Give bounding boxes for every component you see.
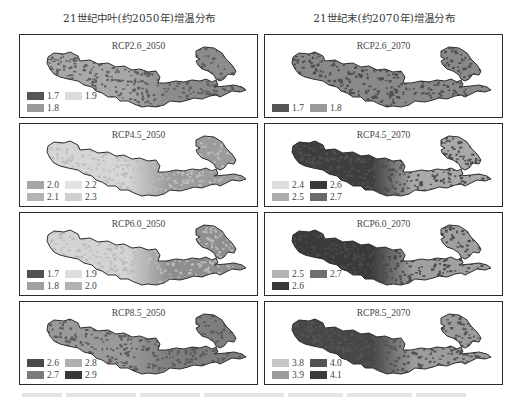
map-panel-rcp2-6-2050: RCP2.6_20501.71.91.8 bbox=[19, 34, 258, 118]
legend-swatch bbox=[272, 282, 289, 290]
column-title-2070: 21世纪末(约2070年)增温分布 bbox=[264, 10, 504, 25]
legend-item: 3.8 bbox=[272, 358, 304, 368]
legend-item: 2.5 bbox=[272, 192, 304, 202]
legend-swatch bbox=[27, 104, 44, 112]
legend-label: 3.8 bbox=[292, 358, 304, 368]
legend-item: 2.7 bbox=[310, 269, 342, 279]
panel-title: RCP8.5_2050 bbox=[20, 308, 257, 318]
legend-item: 4.1 bbox=[310, 370, 342, 380]
legend-swatch bbox=[65, 270, 82, 278]
legend-item: 3.9 bbox=[272, 370, 304, 380]
legend: 2.02.22.12.3 bbox=[27, 180, 97, 202]
panel-title: RCP4.5_2070 bbox=[265, 130, 502, 140]
legend-label: 4.1 bbox=[330, 370, 342, 380]
map-panel-rcp8-5-2070: RCP8.5_20703.84.03.94.1 bbox=[264, 301, 503, 385]
legend-item: 1.9 bbox=[65, 269, 97, 279]
legend-item: 2.0 bbox=[65, 281, 97, 291]
legend-label: 4.0 bbox=[330, 358, 342, 368]
legend-label: 2.7 bbox=[330, 269, 342, 279]
legend-swatch bbox=[65, 359, 82, 367]
legend-swatch bbox=[65, 282, 82, 290]
legend-swatch bbox=[27, 193, 44, 201]
legend-item: 1.7 bbox=[27, 91, 59, 101]
legend-label: 2.9 bbox=[85, 370, 97, 380]
legend-label: 1.8 bbox=[47, 281, 59, 291]
legend-item: 2.2 bbox=[65, 180, 97, 190]
legend-item: 2.6 bbox=[27, 358, 59, 368]
legend-label: 2.0 bbox=[47, 180, 59, 190]
legend-item: 2.6 bbox=[272, 281, 304, 291]
legend-swatch bbox=[65, 193, 82, 201]
legend-item: 2.3 bbox=[65, 192, 97, 202]
map-panel-rcp2-6-2070: RCP2.6_20701.71.8 bbox=[264, 34, 503, 118]
legend-label: 3.9 bbox=[292, 370, 304, 380]
legend-label: 1.9 bbox=[85, 269, 97, 279]
legend-label: 2.0 bbox=[85, 281, 97, 291]
legend-label: 1.8 bbox=[47, 103, 59, 113]
legend-label: 2.2 bbox=[85, 180, 97, 190]
legend-label: 1.7 bbox=[47, 91, 59, 101]
legend-swatch bbox=[65, 371, 82, 379]
legend-swatch bbox=[272, 359, 289, 367]
panel-title: RCP8.5_2070 bbox=[265, 308, 502, 318]
legend-swatch bbox=[272, 181, 289, 189]
map-panel-rcp6-0-2070: RCP6.0_20702.52.72.6 bbox=[264, 212, 503, 296]
legend: 3.84.03.94.1 bbox=[272, 358, 342, 380]
legend-swatch bbox=[27, 92, 44, 100]
legend-label: 1.7 bbox=[292, 103, 304, 113]
legend-item: 4.0 bbox=[310, 358, 342, 368]
legend-swatch bbox=[27, 282, 44, 290]
legend-swatch bbox=[272, 270, 289, 278]
legend-item: 1.8 bbox=[27, 103, 59, 113]
legend-item: 1.8 bbox=[27, 281, 59, 291]
legend-item: 2.6 bbox=[310, 180, 342, 190]
column-title-2050: 21世纪中叶(约2050年)增温分布 bbox=[19, 10, 259, 25]
panel-title: RCP2.6_2070 bbox=[265, 41, 502, 51]
legend: 2.42.62.52.7 bbox=[272, 180, 342, 202]
legend-item: 2.0 bbox=[27, 180, 59, 190]
map-panel-rcp4-5-2070: RCP4.5_20702.42.62.52.7 bbox=[264, 123, 503, 207]
legend-swatch bbox=[310, 104, 327, 112]
legend-item: 2.8 bbox=[65, 358, 97, 368]
legend-item: 2.4 bbox=[272, 180, 304, 190]
panel-title: RCP2.6_2050 bbox=[20, 41, 257, 51]
legend-swatch bbox=[27, 181, 44, 189]
legend-swatch bbox=[310, 270, 327, 278]
legend-item: 2.9 bbox=[65, 370, 97, 380]
legend-item: 1.8 bbox=[310, 103, 342, 113]
panel-title: RCP4.5_2050 bbox=[20, 130, 257, 140]
map-panel-rcp8-5-2050: RCP8.5_20502.62.82.72.9 bbox=[19, 301, 258, 385]
legend-swatch bbox=[27, 359, 44, 367]
panel-title: RCP6.0_2070 bbox=[265, 219, 502, 229]
legend-swatch bbox=[310, 181, 327, 189]
legend-label: 2.6 bbox=[330, 180, 342, 190]
legend-label: 2.6 bbox=[292, 281, 304, 291]
legend: 2.52.72.6 bbox=[272, 269, 342, 291]
legend-label: 2.4 bbox=[292, 180, 304, 190]
legend-item: 2.7 bbox=[310, 192, 342, 202]
map-panel-rcp4-5-2050: RCP4.5_20502.02.22.12.3 bbox=[19, 123, 258, 207]
legend-label: 1.8 bbox=[330, 103, 342, 113]
legend-item: 1.7 bbox=[272, 103, 304, 113]
figure-caption-cropped bbox=[22, 393, 502, 399]
legend-label: 2.5 bbox=[292, 269, 304, 279]
legend-item: 1.9 bbox=[65, 91, 97, 101]
legend-swatch bbox=[310, 359, 327, 367]
legend-swatch bbox=[65, 92, 82, 100]
legend-item: 1.7 bbox=[27, 269, 59, 279]
legend: 1.71.8 bbox=[272, 103, 342, 113]
legend-label: 1.7 bbox=[47, 269, 59, 279]
legend-label: 2.7 bbox=[47, 370, 59, 380]
legend-item: 2.7 bbox=[27, 370, 59, 380]
legend-swatch bbox=[65, 181, 82, 189]
legend-swatch bbox=[310, 371, 327, 379]
legend: 1.71.91.8 bbox=[27, 91, 97, 113]
legend-swatch bbox=[272, 371, 289, 379]
legend-label: 2.3 bbox=[85, 192, 97, 202]
legend-label: 2.5 bbox=[292, 192, 304, 202]
legend-item: 2.1 bbox=[27, 192, 59, 202]
legend-label: 2.8 bbox=[85, 358, 97, 368]
legend: 2.62.82.72.9 bbox=[27, 358, 97, 380]
legend-swatch bbox=[310, 193, 327, 201]
legend-label: 2.7 bbox=[330, 192, 342, 202]
